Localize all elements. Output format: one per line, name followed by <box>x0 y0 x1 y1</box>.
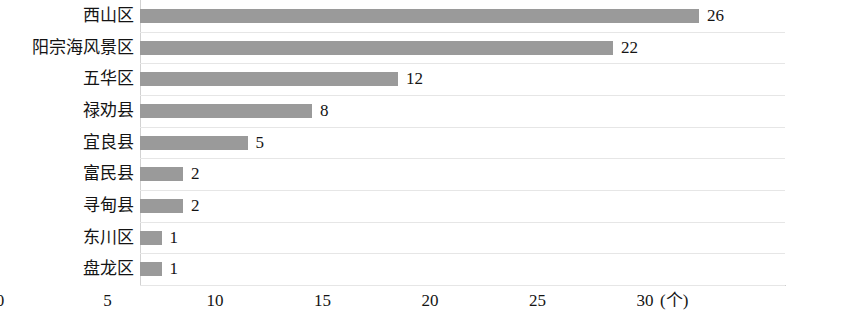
gridline <box>140 32 785 33</box>
bar-value-label: 2 <box>191 197 200 215</box>
category-label: 寻甸县 <box>0 197 134 215</box>
x-tick-label: 15 <box>314 292 331 310</box>
bar <box>140 262 162 276</box>
category-label: 宜良县 <box>0 134 134 152</box>
gridline <box>140 63 785 64</box>
bar-value-label: 5 <box>256 134 265 152</box>
gridline <box>140 158 785 159</box>
bar-value-label: 12 <box>406 70 423 88</box>
x-tick-label: 10 <box>207 292 224 310</box>
bar <box>140 104 312 118</box>
bar-value-label: 26 <box>707 7 724 25</box>
category-label: 西山区 <box>0 7 134 25</box>
bar-value-label: 8 <box>320 102 329 120</box>
category-label: 盘龙区 <box>0 260 134 278</box>
category-label: 阳宗海风景区 <box>0 39 134 57</box>
x-tick-label: 20 <box>422 292 439 310</box>
bar-value-label: 1 <box>170 229 179 247</box>
category-label: 五华区 <box>0 70 134 88</box>
bar <box>140 9 699 23</box>
bar-value-label: 22 <box>621 39 638 57</box>
x-axis-ticks: (个) 051015202530 <box>0 285 645 317</box>
x-tick-label: 25 <box>529 292 546 310</box>
category-label: 富民县 <box>0 165 134 183</box>
category-label: 东川区 <box>0 229 134 247</box>
plot-area: 262212852211 <box>140 0 785 285</box>
bar <box>140 167 183 181</box>
x-tick-label: 5 <box>103 292 112 310</box>
x-axis-unit-label: (个) <box>660 292 688 310</box>
gridline <box>140 253 785 254</box>
x-tick-label: 0 <box>0 292 4 310</box>
gridline <box>140 127 785 128</box>
x-tick-label: 30 <box>637 292 654 310</box>
bar <box>140 231 162 245</box>
bar <box>140 199 183 213</box>
gridline <box>140 95 785 96</box>
gridline <box>140 222 785 223</box>
bar <box>140 136 248 150</box>
bar-chart: 西山区阳宗海风景区五华区禄劝县宜良县富民县寻甸县东川区盘龙区 262212852… <box>0 0 842 317</box>
bar <box>140 41 613 55</box>
category-axis: 西山区阳宗海风景区五华区禄劝县宜良县富民县寻甸县东川区盘龙区 <box>0 0 134 285</box>
bar-value-label: 1 <box>170 260 179 278</box>
bar <box>140 72 398 86</box>
gridline <box>140 190 785 191</box>
category-label: 禄劝县 <box>0 102 134 120</box>
bar-value-label: 2 <box>191 165 200 183</box>
